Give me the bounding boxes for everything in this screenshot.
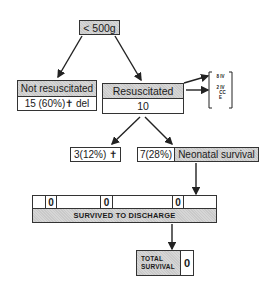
root-node-under-500g: < 500g bbox=[79, 20, 120, 35]
resuscitated-body: 10 bbox=[102, 98, 184, 114]
discharge-cell bbox=[183, 195, 217, 209]
resuscitated-node: Resuscitated 10 bbox=[102, 83, 184, 114]
total-survival-label: TOTAL SURVIVAL bbox=[136, 250, 181, 276]
method-e: E bbox=[212, 95, 229, 100]
arrow-to-died bbox=[112, 117, 140, 144]
discharge-table: 0 0 0 SURVIVED TO DISCHARGE bbox=[32, 195, 217, 223]
arrow-root-to-not-resuscitated bbox=[58, 36, 82, 77]
methods-list: 8 IV 2 IV CC E bbox=[212, 74, 229, 100]
not-resuscitated-value: 15 (60%)✝ del bbox=[25, 98, 90, 109]
discharge-cell bbox=[32, 195, 46, 209]
not-resuscitated-header: Not resuscitated bbox=[17, 80, 97, 97]
not-resuscitated-body: 15 (60%)✝ del bbox=[17, 96, 97, 111]
survived-count: 7(28%) bbox=[137, 147, 175, 162]
discharge-cell bbox=[56, 195, 101, 209]
survived-count-value: 7(28%) bbox=[140, 149, 172, 160]
neonatal-survival-label: Neonatal survival bbox=[174, 147, 259, 162]
arrow-to-method-8iv bbox=[184, 76, 208, 83]
not-resuscitated-title: Not resuscitated bbox=[21, 83, 93, 94]
total-survival-node: TOTAL SURVIVAL 0 bbox=[136, 250, 194, 276]
not-resuscitated-node: Not resuscitated 15 (60%)✝ del bbox=[17, 80, 97, 111]
died-value: 3(12%) ✝ bbox=[74, 149, 117, 160]
resuscitated-header: Resuscitated bbox=[102, 83, 184, 99]
resuscitated-title: Resuscitated bbox=[113, 85, 174, 97]
root-label: < 500g bbox=[83, 22, 115, 34]
arrow-root-to-resuscitated bbox=[115, 36, 141, 80]
total-survival-value: 0 bbox=[180, 250, 194, 276]
survived-to-discharge-label: SURVIVED TO DISCHARGE bbox=[32, 208, 217, 223]
arrow-to-survived bbox=[145, 117, 172, 144]
neonatal-survival-text: Neonatal survival bbox=[178, 149, 255, 160]
resuscitated-value: 10 bbox=[137, 100, 149, 112]
died-outcome: 3(12%) ✝ bbox=[70, 147, 121, 162]
discharge-cell bbox=[112, 195, 173, 209]
